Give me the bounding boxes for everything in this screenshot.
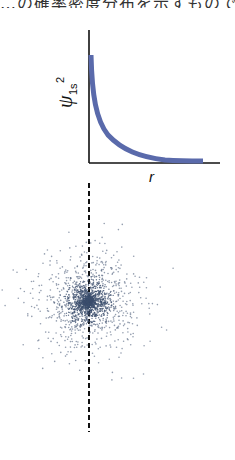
svg-text:2: 2 [54,77,66,83]
psi-squared-curve [91,55,203,161]
svg-text:ψ: ψ [54,95,77,108]
y-axis-label: ψ 1s 2 [54,77,79,108]
orbital-diagram: ψ 1s 2 r [0,0,235,460]
electron-cloud [1,223,174,381]
svg-text:1s: 1s [67,83,79,95]
x-axis-label: r [149,168,155,185]
